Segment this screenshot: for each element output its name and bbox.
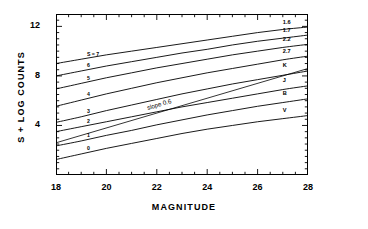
- curve-right-label: 1.7: [283, 27, 291, 33]
- curve: [56, 27, 308, 64]
- x-axis-title: MAGNITUDE: [0, 202, 368, 212]
- curve-right-label: 2.7: [283, 48, 291, 54]
- curve-left-label: 0: [87, 145, 90, 151]
- curve-left-label: 5: [87, 75, 90, 81]
- curve-group: [56, 27, 308, 160]
- curve-left-label: S = 7: [87, 51, 99, 57]
- curve-left-label: 6: [87, 62, 90, 68]
- curve-right-label: V: [283, 107, 287, 113]
- curve-right-label: 2.2: [283, 36, 291, 42]
- x-tick-label: 20: [94, 182, 118, 192]
- curve-right-label: 1.6: [283, 19, 291, 25]
- slope-reference-line: [56, 68, 308, 142]
- curve-right-label: K: [283, 62, 287, 68]
- x-tick-label: 22: [145, 182, 169, 192]
- curve-left-label: 4: [87, 91, 90, 97]
- x-tick-label: 28: [296, 182, 320, 192]
- curve: [56, 116, 308, 160]
- curve-right-label: J: [283, 77, 286, 83]
- axes-frame: [57, 15, 308, 175]
- plot-svg: [56, 14, 308, 175]
- plot-area: [56, 14, 308, 175]
- curve: [56, 86, 308, 132]
- y-axis-title: S + LOG COUNTS: [16, 22, 26, 172]
- x-tick-label: 26: [246, 182, 270, 192]
- curve-right-label: B: [283, 90, 287, 96]
- figure: S = 76543210 1.61.72.22.7KJBV slope 0.6 …: [0, 0, 368, 229]
- x-tick-label: 18: [44, 182, 68, 192]
- x-tick-label: 24: [195, 182, 219, 192]
- curve-left-label: 2: [87, 118, 90, 124]
- curve-left-label: 1: [87, 132, 90, 138]
- curve-left-label: 3: [87, 108, 90, 114]
